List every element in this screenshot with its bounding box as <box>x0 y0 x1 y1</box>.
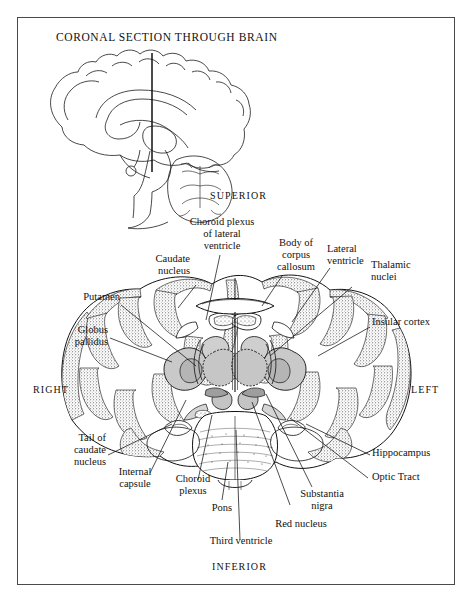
label-internal-capsule: Internal capsule <box>106 466 164 490</box>
label-tail-of-caudate-nucleus: Tail of caudate nucleus <box>38 432 106 467</box>
label-thalamic-nuclei: Thalamic nuclei <box>371 259 433 283</box>
label-optic-tract: Optic Tract <box>372 471 452 483</box>
orientation-right: RIGHT <box>33 384 69 395</box>
label-red-nucleus: Red nucleus <box>263 518 339 530</box>
label-third-ventricle: Third ventricle <box>198 535 284 547</box>
orientation-superior: SUPERIOR <box>210 190 267 201</box>
label-substantia-nigra: Substantia nigra <box>291 488 353 512</box>
orientation-inferior: INFERIOR <box>212 561 267 572</box>
figure-page: CORONAL SECTION THROUGH BRAIN <box>0 0 469 603</box>
label-putamen: Putamen <box>56 291 120 303</box>
label-body-of-corpus-callosum: Body of corpus callosum <box>271 237 321 272</box>
figure-title: CORONAL SECTION THROUGH BRAIN <box>56 31 278 44</box>
label-pons: Pons <box>202 502 242 514</box>
label-caudate-nucleus: Caudate nucleus <box>118 253 190 277</box>
label-hippocampus: Hippocampus <box>372 447 458 459</box>
orientation-left: LEFT <box>411 384 439 395</box>
label-choroid-plexus: Choroid plexus <box>167 473 219 497</box>
label-choroid-plexus-lateral-ventricle: Choroid plexus of lateral ventricle <box>178 216 266 251</box>
label-globus-pallidus: Globus pallidus <box>42 324 108 348</box>
label-insular-cortex: Insular cortex <box>372 316 460 328</box>
